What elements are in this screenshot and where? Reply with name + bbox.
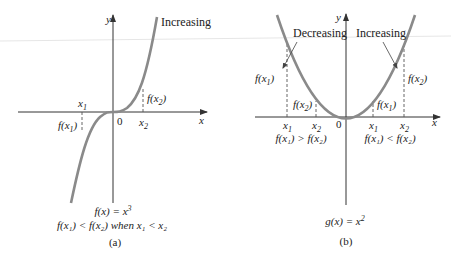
x-axis-label: x [198,114,204,126]
origin-label: 0 [336,118,342,130]
caption-a: (a) [109,236,122,249]
right-condition: f(x₁) < f(x₂) [364,132,415,145]
x-axis-label: x [431,116,437,128]
right-fx2-label: f(x2) [408,72,428,87]
fx1-label: f(x1) [58,119,78,134]
equation-label: g(x) = x2 [325,214,365,228]
panel-b-quadratic: y x 0 Decreasing Increasing x1 x2 x1 x2 … [255,11,440,248]
origin-label: 0 [117,115,123,127]
left-condition: f(x₁) > f(x₂) [275,132,326,145]
y-axis-label: y [335,11,341,23]
right-fx1-label: f(x1) [377,98,397,113]
increasing-arrow [383,42,397,68]
x2-label: x2 [138,116,148,131]
increasing-label: Increasing [356,26,406,40]
left-fx2-label: f(x2) [293,98,313,113]
left-fx1-label: f(x1) [255,72,275,87]
increasing-label: Increasing [161,15,211,29]
x1-label: x1 [77,97,87,112]
decreasing-label: Decreasing [293,26,347,40]
fx2-label: f(x2) [147,92,167,107]
panel-a-cubic: y x 0 Increasing x1 x2 f(x1) f(x2) f(x) … [18,13,211,249]
equation-label: f(x) = x3 [94,204,131,218]
monotonic-functions-figure: y x 0 Increasing x1 x2 f(x1) f(x2) f(x) … [0,0,451,261]
caption-b: (b) [340,235,353,248]
y-axis-label: y [105,13,111,25]
condition-label: f(x₁) < f(x₂) when x₁ < x₂ [57,219,167,232]
